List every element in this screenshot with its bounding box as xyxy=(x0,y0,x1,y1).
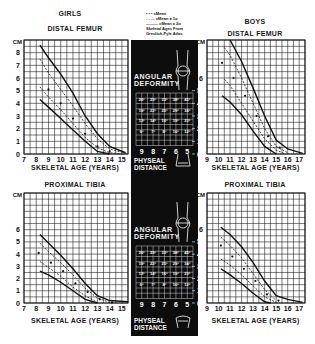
svg-text:12: 12 xyxy=(81,305,89,312)
svg-text:2: 2 xyxy=(16,125,20,132)
mean-point xyxy=(254,280,256,282)
svg-text:4: 4 xyxy=(16,251,20,258)
svg-text:0: 0 xyxy=(197,151,201,158)
title-text: PROXIMAL TIBIA xyxy=(44,181,105,188)
title-text: DISTAL FEMUR xyxy=(47,25,102,32)
svg-text:19°: 19° xyxy=(173,118,179,123)
svg-text:12: 12 xyxy=(238,305,246,312)
xlabel-girls-femur: SKELETAL AGE (YEARS) xyxy=(15,164,135,171)
svg-text:2: 2 xyxy=(16,275,20,282)
svg-text:3: 3 xyxy=(16,263,20,270)
mean-point xyxy=(231,255,233,257)
series-mean-1- xyxy=(224,48,287,153)
chart-canvas: 789101112131415CM01234567891011121314151… xyxy=(0,0,315,344)
svg-text:23°: 23° xyxy=(184,271,190,276)
mean-point xyxy=(72,117,74,119)
svg-text:38°: 38° xyxy=(173,250,179,255)
svg-text:23°: 23° xyxy=(184,118,190,123)
mean-point xyxy=(244,95,246,97)
svg-text:3: 3 xyxy=(16,113,20,120)
svg-text:19°: 19° xyxy=(139,261,145,266)
angular-label-2: DEFORMITY xyxy=(134,233,180,240)
series-mean-2- xyxy=(221,269,271,303)
physeal-distance-icon xyxy=(176,154,190,166)
svg-text:13: 13 xyxy=(94,305,102,312)
mean-point xyxy=(221,62,223,64)
svg-text:19°: 19° xyxy=(139,108,145,113)
mean-point xyxy=(109,150,111,152)
svg-text:6: 6 xyxy=(174,148,178,155)
series-mean-2- xyxy=(40,100,110,154)
svg-text:8: 8 xyxy=(34,305,38,312)
svg-text:1: 1 xyxy=(16,287,20,294)
title-girls-distal-femur: DISTAL FEMUR xyxy=(20,25,130,32)
mean-point xyxy=(232,77,234,79)
svg-text:6: 6 xyxy=(199,226,203,233)
plot-0: 789101112131415CM012345678 xyxy=(13,39,128,163)
svg-text:19°: 19° xyxy=(173,271,179,276)
svg-text:11: 11 xyxy=(226,305,234,312)
svg-text:45°: 45° xyxy=(184,250,190,255)
svg-text:13°: 13° xyxy=(139,271,145,276)
plot-1: 91011121314151617CM6 xyxy=(196,39,305,163)
svg-text:10: 10 xyxy=(215,156,223,163)
svg-text:8°: 8° xyxy=(163,129,167,134)
angular-deformity-label-bottom: ANGULAR DEFORMITY xyxy=(134,226,180,240)
svg-text:15: 15 xyxy=(118,156,126,163)
svg-text:22°: 22° xyxy=(150,108,156,113)
svg-text:4: 4 xyxy=(197,251,201,258)
svg-text:5: 5 xyxy=(16,87,20,94)
mean-point xyxy=(220,244,222,246)
svg-text:9: 9 xyxy=(140,148,144,155)
angular-label-2: DEFORMITY xyxy=(134,80,180,87)
svg-text:26°: 26° xyxy=(139,250,145,255)
angular-deformity-table: 26°29°33°38°45°19°22°25°29°34°13°14°16°1… xyxy=(136,93,193,155)
mean-point xyxy=(111,301,113,303)
svg-text:9: 9 xyxy=(47,156,51,163)
svg-text:8°: 8° xyxy=(163,282,167,287)
svg-text:1: 1 xyxy=(197,138,201,145)
svg-text:12: 12 xyxy=(81,156,89,163)
svg-text:14°: 14° xyxy=(150,271,156,276)
mean-point xyxy=(84,133,86,135)
svg-text:4: 4 xyxy=(197,100,201,107)
angular-deformity-label-top: ANGULAR DEFORMITY xyxy=(134,73,180,87)
svg-text:6: 6 xyxy=(174,301,178,308)
svg-text:45°: 45° xyxy=(184,97,190,102)
mean-point xyxy=(38,252,40,254)
svg-text:11: 11 xyxy=(69,156,77,163)
series-mean-2- xyxy=(40,45,126,153)
svg-text:17: 17 xyxy=(295,305,303,312)
svg-text:14: 14 xyxy=(106,305,114,312)
svg-text:13°: 13° xyxy=(139,118,145,123)
title-girls-proximal-tibia: PROXIMAL TIBIA xyxy=(20,181,130,188)
svg-text:34°: 34° xyxy=(184,108,190,113)
svg-text:8: 8 xyxy=(151,301,155,308)
svg-text:2: 2 xyxy=(197,125,201,132)
svg-text:14: 14 xyxy=(261,156,269,163)
svg-text:3: 3 xyxy=(197,113,201,120)
svg-text:8: 8 xyxy=(34,156,38,163)
angular-label-1: ANGULAR xyxy=(134,73,180,80)
svg-text:25°: 25° xyxy=(161,108,167,113)
svg-text:16: 16 xyxy=(284,305,292,312)
svg-text:12°: 12° xyxy=(184,282,190,287)
svg-text:38°: 38° xyxy=(173,97,179,102)
svg-text:5: 5 xyxy=(197,87,201,94)
xlabel-boys-femur: SKELETAL AGE (YEARS) xyxy=(198,164,313,171)
svg-text:25°: 25° xyxy=(161,261,167,266)
mean-point xyxy=(99,298,101,300)
svg-text:0: 0 xyxy=(16,151,20,158)
svg-text:14°: 14° xyxy=(150,118,156,123)
svg-text:1: 1 xyxy=(197,287,201,294)
svg-text:5: 5 xyxy=(16,238,20,245)
svg-text:CM: CM xyxy=(13,39,22,45)
svg-text:6: 6 xyxy=(16,75,20,82)
angular-deformity-table: 26°29°33°38°45°19°22°25°29°34°13°14°16°1… xyxy=(136,246,193,308)
svg-text:7: 7 xyxy=(163,148,167,155)
physeal-distance-label-bottom: PHYSEAL DISTANCE xyxy=(134,317,167,331)
mean-point xyxy=(62,270,64,272)
svg-text:8: 8 xyxy=(151,148,155,155)
svg-text:9: 9 xyxy=(140,301,144,308)
mean-point xyxy=(50,262,52,264)
